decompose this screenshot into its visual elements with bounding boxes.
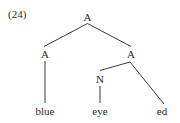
branch-right-n xyxy=(100,62,130,71)
node-root-a: A xyxy=(84,12,92,23)
terminal-blue: blue xyxy=(36,106,55,117)
branch-right-ed xyxy=(130,62,164,104)
node-right-a: A xyxy=(127,49,135,60)
branch-root-left xyxy=(44,24,88,47)
branch-root-right xyxy=(88,24,132,47)
terminal-eye: eye xyxy=(92,106,107,117)
node-left-a: A xyxy=(41,49,49,60)
node-n: N xyxy=(96,74,104,85)
terminal-ed: ed xyxy=(157,106,167,117)
